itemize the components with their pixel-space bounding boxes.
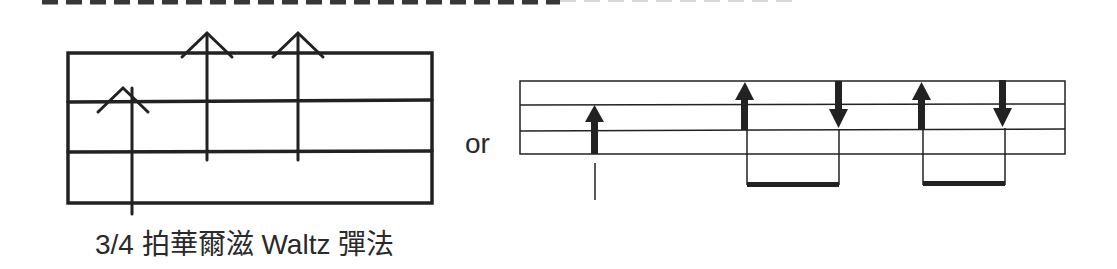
beamed-eighth-pair <box>912 80 1012 186</box>
diagram-caption: 3/4 拍華爾滋 Waltz 彈法 <box>95 222 394 262</box>
left-strum-grid <box>68 33 432 214</box>
solid-up-arrow-icon <box>585 105 604 200</box>
or-connector-label: or <box>465 128 490 160</box>
top-dashed-divider <box>42 1 800 2</box>
solid-up-arrow-icon <box>912 82 931 129</box>
right-strum-staff <box>520 80 1065 200</box>
beamed-eighth-pair <box>735 81 848 187</box>
solid-up-arrow-icon <box>735 82 754 130</box>
